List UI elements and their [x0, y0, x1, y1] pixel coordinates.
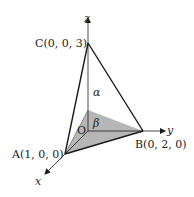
- x-axis-label: x: [35, 175, 42, 188]
- point-a-label: A(1, 0, 0): [11, 148, 64, 161]
- z-axis-label: z: [83, 12, 90, 25]
- alpha-label: α: [93, 86, 101, 99]
- origin-label: O: [77, 124, 86, 137]
- diagram-canvas: z y x C(0, 0, 3) B(0, 2, 0) A(1, 0, 0) O…: [0, 0, 194, 197]
- point-c-label: C(0, 0, 3): [35, 37, 87, 50]
- point-b-label: B(0, 2, 0): [135, 138, 187, 151]
- beta-label: β: [92, 117, 99, 130]
- tetrahedron-diagram: z y x C(0, 0, 3) B(0, 2, 0) A(1, 0, 0) O…: [0, 0, 194, 197]
- y-axis-label: y: [166, 124, 174, 137]
